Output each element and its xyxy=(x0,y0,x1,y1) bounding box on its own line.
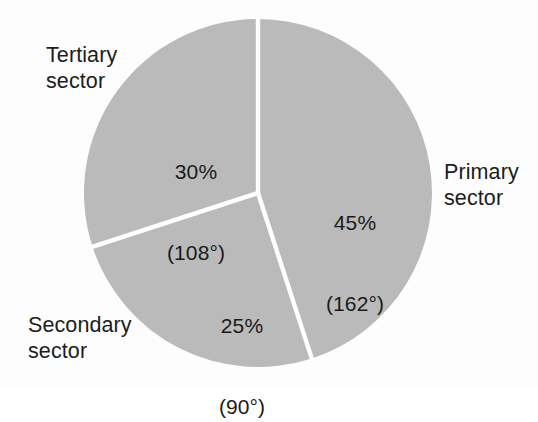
value-label-secondary: 25% (90°) xyxy=(183,258,301,422)
category-label-secondary-line1: Secondary xyxy=(28,313,132,337)
category-label-primary-line1: Primary xyxy=(444,160,519,184)
category-label-secondary-line2: sector xyxy=(28,339,87,363)
category-label-primary: Primarysector xyxy=(444,159,519,211)
category-label-primary-line2: sector xyxy=(444,186,503,210)
value-label-primary-angle: (162°) xyxy=(296,290,414,317)
value-label-secondary-angle: (90°) xyxy=(183,393,301,420)
category-label-tertiary-line2: sector xyxy=(46,69,105,93)
category-label-tertiary: Tertiarysector xyxy=(46,42,117,94)
value-label-tertiary-percent: 30% xyxy=(137,158,255,185)
value-label-secondary-percent: 25% xyxy=(183,312,301,339)
value-label-primary-percent: 45% xyxy=(296,209,414,236)
category-label-tertiary-line1: Tertiary xyxy=(46,43,117,67)
value-label-primary: 45% (162°) xyxy=(296,155,414,371)
category-label-secondary: Secondarysector xyxy=(28,312,132,364)
